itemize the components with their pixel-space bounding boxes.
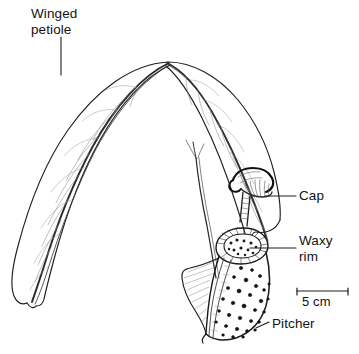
botanical-illustration-figure: Winged petiole Cap Waxy rim Pitcher 5 cm: [0, 0, 359, 354]
right-leaf: [166, 62, 280, 247]
pitcher-body: [182, 252, 270, 343]
left-leaf: [12, 62, 170, 308]
scale-bar-label: 5 cm: [302, 294, 331, 310]
label-waxy-rim: Waxy rim: [299, 233, 333, 264]
label-pitcher: Pitcher: [272, 316, 315, 332]
label-cap: Cap: [299, 188, 324, 204]
tendril: [186, 140, 219, 278]
leader-lines: [61, 37, 296, 328]
label-winged-petiole: Winged petiole: [31, 6, 77, 37]
pitcher-speckles: [215, 266, 270, 338]
